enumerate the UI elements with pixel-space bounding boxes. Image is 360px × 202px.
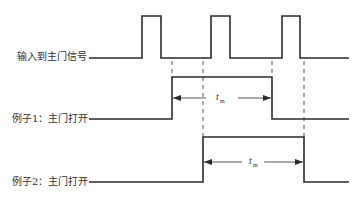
example1-tm-label: t [216, 91, 219, 102]
timing-diagram: t m t m [0, 0, 360, 202]
dashed-guides [172, 61, 304, 137]
example2-gate-waveform [89, 137, 349, 182]
example2-duration-arrow: t m [204, 155, 303, 168]
example1-duration-arrow: t m [173, 91, 271, 104]
example2-tm-label: t [249, 155, 252, 166]
example1-tm-subscript: m [220, 98, 225, 104]
example1-gate-waveform [89, 77, 349, 119]
input-signal-waveform [89, 16, 349, 58]
example2-tm-subscript: m [253, 162, 258, 168]
